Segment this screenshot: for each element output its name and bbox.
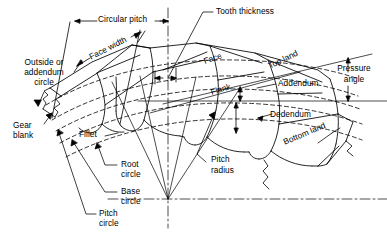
label-addendum: Addendum bbox=[278, 79, 319, 89]
label-dedendum: Dedendum bbox=[270, 110, 311, 120]
label-root-circle-line2: circle bbox=[121, 170, 141, 180]
label-pressure-angle-line2: angle bbox=[326, 75, 382, 85]
label-pitch-circle-line2: circle bbox=[99, 219, 119, 229]
reference-circle-arcs bbox=[46, 60, 362, 157]
label-pitch-radius-line1: Pitch bbox=[211, 155, 230, 165]
label-pitch-radius-line2: radius bbox=[211, 166, 234, 176]
label-base-circle-line2: circle bbox=[121, 197, 141, 207]
label-gear-blank-line2: blank bbox=[13, 131, 33, 141]
label-fillet: Fillet bbox=[79, 130, 97, 140]
gear-nomenclature-figure: Circular pitch Tooth thickness Outside o… bbox=[0, 0, 387, 245]
label-pressure-angle-line1: Pressure bbox=[326, 64, 382, 74]
label-tooth-thickness: Tooth thickness bbox=[216, 7, 274, 17]
gear-diagram-canvas bbox=[0, 0, 387, 245]
label-circular-pitch: Circular pitch bbox=[98, 15, 147, 25]
label-outside-line3: circle bbox=[8, 78, 80, 88]
